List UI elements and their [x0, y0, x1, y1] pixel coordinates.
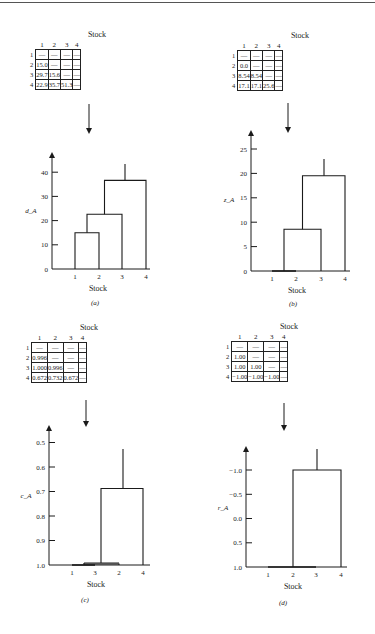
xlabel-d: Stock	[284, 582, 302, 591]
ylabel-a: d_A	[25, 207, 37, 215]
caption-a: (a)	[91, 299, 100, 307]
ytick: 1.0	[36, 562, 45, 570]
ytick: 10	[240, 219, 248, 227]
caption-c: (c)	[81, 596, 89, 604]
xtick: 4	[343, 275, 347, 283]
xlabel-b: Stock	[288, 286, 306, 295]
xtick: 3	[120, 273, 124, 281]
ytick: 15	[240, 194, 248, 202]
chart-d-dendrogram	[268, 449, 341, 567]
xtick: 1	[73, 273, 77, 281]
chart-c-axes	[49, 428, 150, 565]
ytick: 20	[41, 217, 49, 225]
ytick: 40	[41, 169, 49, 177]
caption-d: (d)	[279, 599, 288, 607]
chart-a-axes	[52, 155, 150, 269]
xtick: 3	[319, 275, 323, 283]
chart-c-dendrogram	[72, 449, 143, 565]
xlabel-a: Stock	[89, 284, 107, 293]
ytick: 0	[244, 268, 248, 276]
ytick: 10	[41, 241, 49, 249]
ytick: −1.0	[229, 467, 242, 475]
ytick: 0	[45, 266, 49, 274]
xtick: 1	[70, 569, 74, 577]
ylabel-b: z_A	[223, 196, 235, 204]
chart-b-axes	[251, 133, 350, 271]
xtick: 3	[93, 569, 97, 577]
xtick: 1	[270, 275, 274, 283]
ytick: 1.0	[233, 564, 242, 572]
caption-b: (b)	[289, 300, 298, 308]
xtick: 2	[294, 275, 298, 283]
ytick: 0.0	[233, 515, 242, 523]
ytick: 0.6	[36, 464, 45, 472]
xtick: 1	[266, 571, 270, 579]
ytick: 0.5	[36, 439, 45, 447]
ytick: 25	[240, 146, 248, 154]
chart-b-dendrogram	[272, 159, 345, 271]
ytick: −0.5	[229, 491, 242, 499]
dendrograms-canvas: 0 10 20 30 40 0 5 10 15 20 25 1.0 0.9 0.…	[0, 0, 375, 634]
ytick: 0.8	[36, 513, 45, 521]
xtick: 3	[314, 571, 318, 579]
chart-a-dendrogram	[75, 164, 146, 269]
ytick: 30	[41, 193, 49, 201]
xtick: 4	[141, 569, 145, 577]
xtick: 2	[97, 273, 101, 281]
ytick: 0.5	[233, 539, 242, 547]
xtick: 2	[117, 569, 121, 577]
chart-d-axes	[246, 449, 347, 567]
xtick: 2	[291, 571, 295, 579]
ytick: 20	[240, 170, 248, 178]
xlabel-c: Stock	[87, 580, 105, 589]
ylabel-d: r_A	[218, 504, 229, 512]
xtick: 4	[144, 273, 148, 281]
ytick: 5	[244, 243, 248, 251]
ytick: 0.7	[36, 488, 45, 496]
ytick: 0.9	[36, 537, 45, 545]
ylabel-c: c_A	[21, 492, 33, 500]
xtick: 4	[339, 571, 343, 579]
